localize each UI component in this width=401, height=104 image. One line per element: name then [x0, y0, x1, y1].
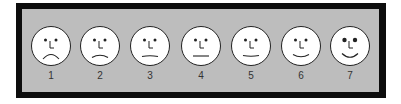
face-very-sad-icon	[30, 25, 72, 67]
face-option-1[interactable]: 1	[26, 9, 76, 92]
face-label: 4	[176, 70, 226, 81]
face-option-4[interactable]: 4	[176, 9, 226, 92]
face-slightly-happy-icon	[230, 25, 272, 67]
face-very-happy-icon	[329, 25, 371, 67]
face-neutral-icon	[180, 25, 222, 67]
face-option-2[interactable]: 2	[75, 9, 125, 92]
face-label: 7	[325, 70, 375, 81]
face-label: 3	[125, 70, 175, 81]
face-label: 2	[75, 70, 125, 81]
face-sad-icon	[79, 25, 121, 67]
rating-scale-panel: 1234567	[22, 9, 379, 92]
face-option-7[interactable]: 7	[325, 9, 375, 92]
face-option-5[interactable]: 5	[226, 9, 276, 92]
face-option-6[interactable]: 6	[276, 9, 326, 92]
rating-scale-frame: 1234567	[16, 3, 386, 98]
face-label: 6	[276, 70, 326, 81]
face-label: 5	[226, 70, 276, 81]
face-label: 1	[26, 70, 76, 81]
face-slightly-sad-icon	[129, 25, 171, 67]
face-happy-icon	[280, 25, 322, 67]
face-option-3[interactable]: 3	[125, 9, 175, 92]
